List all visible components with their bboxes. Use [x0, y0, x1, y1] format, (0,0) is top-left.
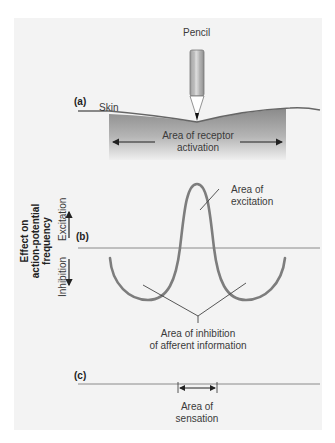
inhibition-callout-label: Area of inhibition of afferent informati…: [138, 328, 258, 352]
pencil-label: Pencil: [183, 27, 210, 39]
panel-b-label: (b): [76, 231, 89, 243]
excitation-axis-label: Excitation: [57, 198, 69, 241]
panel-c-label: (c): [74, 370, 86, 382]
pencil-icon: [190, 50, 204, 121]
skin-label: Skin: [99, 102, 118, 114]
panel-a-label: (a): [74, 96, 86, 108]
y-axis-title: Effect on action-potential frequency: [19, 186, 52, 296]
receptor-activation-label: Area of receptor activation: [155, 130, 241, 154]
sensation-label: Area of sensation: [167, 401, 227, 425]
excitation-callout-label: Area of excitation: [231, 184, 273, 208]
inhibition-axis-label: Inhibition: [57, 257, 69, 297]
